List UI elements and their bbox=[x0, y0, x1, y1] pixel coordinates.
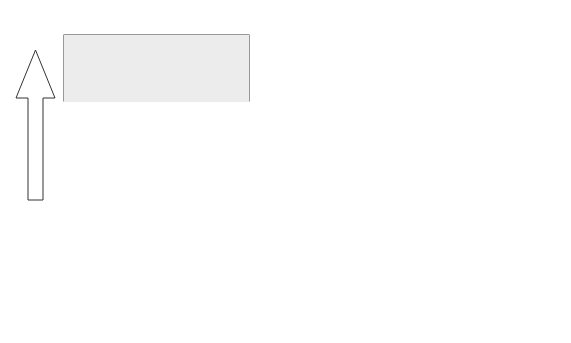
free-energy-axis-arrow bbox=[16, 50, 55, 200]
energy-diagram bbox=[0, 0, 571, 343]
